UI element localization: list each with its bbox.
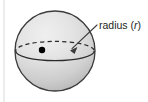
sphere-diagram-svg: radius (r) <box>0 0 148 102</box>
radius-label: radius (r) <box>99 19 141 31</box>
sphere-center-dot <box>39 47 45 53</box>
radius-label-paren-close: ) <box>138 19 142 31</box>
sphere-radius-figure: radius (r) <box>0 0 148 102</box>
radius-label-word: radius ( <box>99 19 135 31</box>
